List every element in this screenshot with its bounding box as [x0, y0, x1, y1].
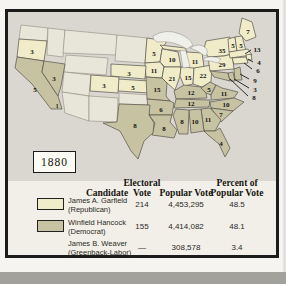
ev-label-de: 3: [253, 86, 257, 94]
ev-label-or: 3: [30, 48, 34, 56]
year-box: 1880: [33, 151, 76, 173]
ev-label-oh: 22: [200, 72, 208, 80]
ev-label-ia: 11: [151, 67, 158, 75]
ev-label-ky: 12: [188, 89, 196, 97]
map-area: 3513335511151021111522121251110711108688…: [8, 12, 276, 181]
ev-label-co: 3: [102, 82, 106, 90]
page-bottom-shadow: [0, 272, 286, 284]
header-percent-popular-vote: Percent of Popular Vote: [204, 178, 270, 198]
ev-label-md: 8: [252, 94, 256, 102]
ev-label-tx: 8: [133, 122, 137, 130]
state-mt-territory: [63, 30, 117, 55]
state-md: [210, 71, 230, 81]
state-dakota-territory: [115, 35, 147, 63]
ev-label-ar: 6: [159, 106, 163, 114]
legend-swatch-republican: [37, 198, 64, 210]
state-fl: [204, 128, 230, 157]
ev-label-nv: 3: [52, 75, 56, 83]
ev-label-ri: 4: [257, 59, 261, 67]
state-nj: [234, 67, 242, 80]
garfield-popular-vote: 4,453,295: [158, 200, 214, 209]
ev-label-nh: 5: [239, 42, 243, 50]
state-az-territory: [62, 92, 89, 121]
ev-label-wv: 5: [207, 86, 211, 94]
ev-label-ne: 3: [127, 70, 131, 78]
ev-label-pa: 29: [219, 61, 227, 69]
state-id-territory: [47, 28, 65, 57]
state-ok-territory: [119, 93, 150, 105]
ev-label-mo: 15: [154, 86, 162, 94]
callout-line-ct: [244, 63, 252, 69]
ev-label-ct: 6: [256, 67, 260, 75]
ev-label-ks: 5: [131, 84, 135, 92]
state-ct: [232, 57, 248, 64]
ev-label-sc: 7: [219, 111, 223, 119]
ev-label-vt: 5: [231, 42, 235, 50]
state-wa-territory: [19, 25, 48, 41]
weaver-popular-vote: 308,578: [158, 243, 214, 252]
legend-swatch-democrat: [37, 220, 64, 232]
ev-label-tn: 12: [188, 100, 196, 108]
ev-label-fl: 4: [219, 140, 223, 148]
hancock-popular-vote: 4,414,082: [158, 222, 214, 231]
figure-frame: 3513335511151021111522121251110711108688…: [5, 9, 279, 258]
state-nm-territory: [89, 96, 118, 122]
ev-label-ca-split: 1: [56, 103, 59, 109]
ev-label-ma: 13: [254, 46, 262, 54]
ev-label-al: 10: [192, 118, 200, 126]
ev-label-ca: 5: [33, 86, 37, 94]
hancock-percent: 48.1: [208, 222, 266, 231]
ev-label-in: 15: [185, 74, 193, 82]
ev-label-la: 8: [162, 125, 166, 133]
year-label: 1880: [41, 156, 68, 168]
ev-label-va: 11: [221, 90, 228, 98]
page-edge-shade: [283, 0, 286, 272]
state-wy-territory: [64, 55, 108, 75]
ev-label-ny: 35: [219, 47, 227, 55]
ev-label-mn: 5: [152, 50, 156, 58]
ev-label-me: 7: [246, 28, 250, 36]
ev-label-mi: 11: [192, 58, 199, 66]
ev-label-ms: 8: [180, 118, 184, 126]
weaver-percent: 3.4: [208, 243, 266, 252]
garfield-percent: 48.5: [208, 200, 266, 209]
ev-label-wi: 10: [169, 56, 177, 64]
ev-label-il: 21: [169, 75, 177, 83]
ev-label-ga: 11: [205, 116, 212, 124]
ev-label-nj: 9: [253, 77, 257, 85]
ev-label-nc: 10: [223, 101, 231, 109]
